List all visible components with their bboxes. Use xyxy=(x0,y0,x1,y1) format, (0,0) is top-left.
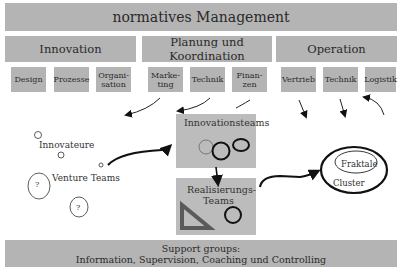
support-groups-items: Information, Supervision, Coaching und C… xyxy=(76,254,326,265)
diagram-arrows-shapes xyxy=(0,0,402,271)
support-groups-bar: Support groups: Information, Supervision… xyxy=(5,240,397,267)
support-groups-title: Support groups: xyxy=(162,243,241,254)
